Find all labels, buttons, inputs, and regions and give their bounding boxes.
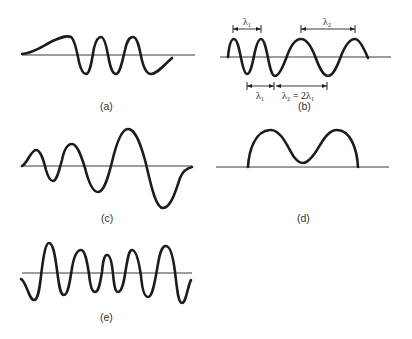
panel-a: (a): [22, 36, 195, 112]
panel-e-label: (e): [100, 311, 113, 323]
panel-c-label: (c): [101, 212, 113, 224]
panel-e: (e): [21, 243, 192, 323]
panel-d-label: (d): [297, 212, 310, 224]
panel-b: λ₁ λ₂ λ₁ λ₂ = 2λ₁ (b): [220, 16, 391, 112]
panel-b-label: (b): [298, 100, 311, 112]
lambda1-top-label: λ₁: [243, 16, 251, 27]
lambda1-bottom-label: λ₁: [256, 90, 264, 101]
dimension-lambda2-bottom: λ₂ = 2λ₁: [276, 82, 327, 101]
dimension-lambda2-top: λ₂: [301, 16, 355, 33]
waveform-figure: (a) λ₁ λ₂ λ₁: [0, 0, 412, 339]
panel-d: (d): [216, 130, 389, 224]
lambda2-top-label: λ₂: [323, 16, 331, 27]
dimension-lambda1-top: λ₁: [233, 16, 261, 33]
panel-c: (c): [22, 129, 192, 224]
panel-a-label: (a): [100, 100, 113, 112]
dimension-lambda1-bottom: λ₁: [247, 82, 274, 101]
panel-d-wave: [248, 130, 358, 167]
panel-c-wave: [22, 129, 192, 208]
